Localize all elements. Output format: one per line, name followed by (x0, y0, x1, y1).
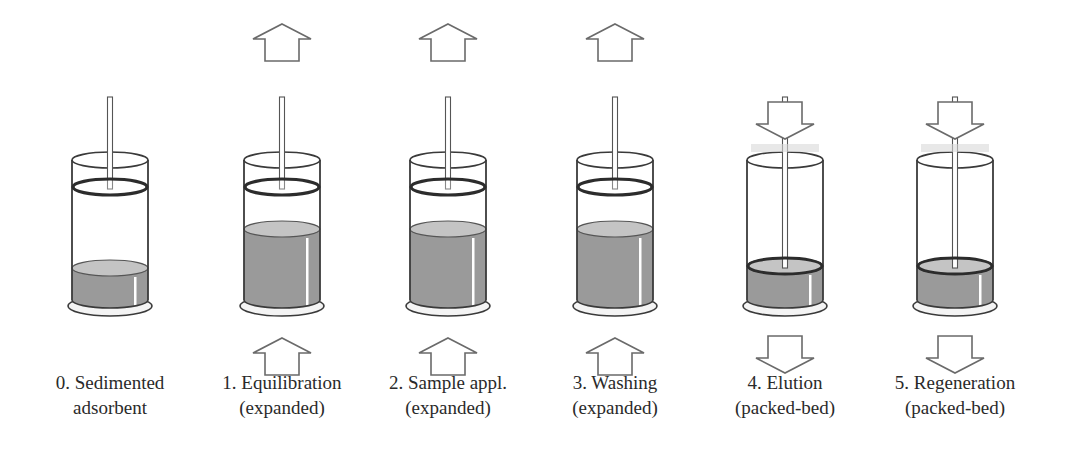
step-label-5: 5. Regeneration(packed-bed) (870, 370, 1040, 420)
step-label-line2: (packed-bed) (700, 395, 870, 420)
inflow-down-arrow-icon (926, 102, 984, 139)
column-step-4 (743, 97, 827, 373)
outflow-up-arrow-icon (586, 24, 644, 61)
inflow-down-arrow-icon (756, 102, 814, 139)
step-label-line2: (expanded) (530, 395, 700, 420)
step-label-1: 1. Equilibration(expanded) (197, 370, 367, 420)
step-label-4: 4. Elution(packed-bed) (700, 370, 870, 420)
outlet-line (809, 275, 812, 307)
step-label-line2: (expanded) (363, 395, 533, 420)
bed-surface (410, 221, 486, 237)
step-label-line1: 4. Elution (700, 370, 870, 395)
bed-surface (244, 221, 320, 237)
adsorbent-bed (410, 229, 486, 308)
column-step-1 (240, 24, 324, 375)
step-label-line1: 3. Washing (530, 370, 700, 395)
outflow-down-arrow-icon (926, 336, 984, 373)
outflow-up-arrow-icon (419, 24, 477, 61)
step-label-line2: adsorbent (25, 395, 195, 420)
step-label-3: 3. Washing(expanded) (530, 370, 700, 420)
step-label-line1: 1. Equilibration (197, 370, 367, 395)
flow-adaptor (73, 179, 147, 195)
column-step-2 (406, 24, 490, 375)
outlet-line (306, 238, 309, 307)
outflow-up-arrow-icon (253, 24, 311, 61)
step-label-line2: (expanded) (197, 395, 367, 420)
plunger-rod (108, 97, 113, 189)
flow-adaptor (245, 179, 319, 195)
plunger-rod (613, 97, 618, 189)
adsorbent-bed (244, 229, 320, 308)
outlet-line (134, 277, 137, 307)
plunger-rod (280, 97, 285, 189)
bed-surface (72, 260, 148, 276)
column-step-3 (573, 24, 657, 375)
column-step-0 (68, 97, 152, 316)
step-label-0: 0. Sedimentedadsorbent (25, 370, 195, 420)
step-label-line1: 5. Regeneration (870, 370, 1040, 395)
outlet-line (979, 275, 982, 307)
flow-adaptor (578, 179, 652, 195)
step-label-line2: (packed-bed) (870, 395, 1040, 420)
plunger-rod (446, 97, 451, 189)
step-label-2: 2. Sample appl.(expanded) (363, 370, 533, 420)
column-step-5 (913, 97, 997, 373)
adsorbent-bed (577, 229, 653, 308)
flow-adaptor (411, 179, 485, 195)
flow-haze (751, 144, 819, 152)
flow-haze (921, 144, 989, 152)
outlet-line (472, 238, 475, 307)
step-label-line1: 2. Sample appl. (363, 370, 533, 395)
bed-surface (577, 221, 653, 237)
step-label-line1: 0. Sedimented (25, 370, 195, 395)
outflow-down-arrow-icon (756, 336, 814, 373)
outlet-line (639, 238, 642, 307)
